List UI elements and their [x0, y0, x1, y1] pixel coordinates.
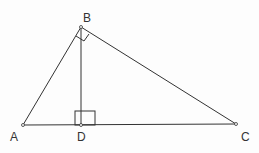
segment-ab	[23, 27, 81, 125]
point-d	[80, 124, 83, 127]
label-a: A	[10, 131, 18, 143]
right-angle-marker-d	[75, 111, 95, 125]
segment-ac	[23, 124, 236, 125]
label-d: D	[77, 131, 86, 143]
segment-bc	[81, 27, 236, 124]
point-a	[22, 124, 25, 127]
triangle-figure	[0, 0, 259, 153]
right-angle-marker-b	[76, 34, 89, 41]
label-b: B	[83, 12, 91, 24]
label-c: C	[241, 131, 250, 143]
point-c	[235, 123, 238, 126]
point-b	[80, 26, 83, 29]
geometry-diagram: B A D C	[0, 0, 259, 153]
